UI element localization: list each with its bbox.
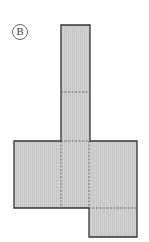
net-outline xyxy=(14,25,137,237)
cuboid-net-diagram xyxy=(0,0,149,242)
